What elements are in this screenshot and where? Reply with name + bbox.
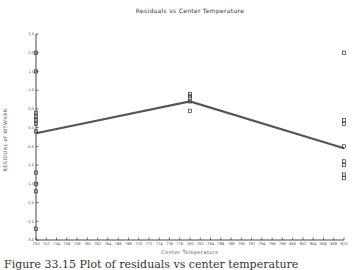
x-tick-label: 786: [217, 242, 225, 246]
x-tick-label: 780: [187, 242, 195, 246]
x-tick-label: 788: [228, 242, 236, 246]
x-tick-label: 784: [207, 242, 215, 246]
x-tick-label: 768: [125, 242, 133, 246]
data-point: [188, 109, 191, 112]
x-tick-label: 752: [43, 242, 50, 246]
y-axis-label: RESIDUAL of WTWVAR: [2, 108, 8, 171]
y-tick-label: 2.0: [28, 51, 34, 55]
x-tick-label: 792: [248, 242, 255, 246]
y-tick-label: 1.5: [28, 70, 34, 74]
y-tick-label: -1.5: [27, 182, 34, 186]
x-tick-label: 782: [197, 242, 204, 246]
y-tick-label: -2.0: [27, 201, 35, 205]
x-tick-label: 766: [115, 242, 123, 246]
x-tick-label: 758: [74, 242, 82, 246]
data-point: [342, 119, 345, 122]
x-tick-label: 760: [84, 242, 92, 246]
residuals-chart: Residuals vs Center Temperature 2.52.01.…: [0, 0, 359, 270]
data-point: [342, 122, 345, 125]
x-axis-label: Center Temperature: [161, 249, 218, 256]
x-tick-label: 790: [238, 242, 246, 246]
figure-caption: Figure 33.15 Plot of residuals vs center…: [4, 258, 298, 270]
x-tick-label: 794: [258, 242, 266, 246]
x-tick-label: 756: [63, 242, 71, 246]
data-point: [342, 51, 345, 54]
data-point: [342, 160, 345, 163]
x-tick-label: 808: [330, 242, 338, 246]
x-tick-label: 774: [156, 242, 164, 246]
x-tick-label: 802: [300, 242, 307, 246]
x-tick-label: 754: [53, 242, 61, 246]
y-tick-label: 1.0: [28, 88, 34, 92]
x-tick-label: 796: [269, 242, 277, 246]
x-tick-label: 778: [176, 242, 184, 246]
data-point: [342, 177, 345, 180]
chart-title: Residuals vs Center Temperature: [136, 7, 244, 15]
y-tick-label: 2.5: [28, 32, 34, 36]
x-tick-label: 776: [166, 242, 174, 246]
x-tick-label: 800: [289, 242, 297, 246]
y-tick-label: -1.0: [27, 163, 35, 167]
x-tick-label: 798: [279, 242, 287, 246]
x-tick-label: 810: [341, 242, 349, 246]
data-point: [342, 163, 345, 166]
x-tick-label: 762: [94, 242, 101, 246]
x-tick-label: 764: [104, 242, 112, 246]
data-point: [342, 173, 345, 176]
x-tick-label: 804: [310, 242, 318, 246]
axes: 2.52.01.51.00.50.0-0.5-1.0-1.5-2.0-2.5-3…: [27, 32, 348, 246]
x-tick-label: 750: [33, 242, 41, 246]
x-tick-label: 806: [320, 242, 328, 246]
x-tick-label: 770: [135, 242, 143, 246]
x-tick-label: 772: [146, 242, 153, 246]
y-tick-label: 0.0: [28, 126, 34, 130]
plot-area: [34, 51, 345, 230]
y-tick-label: -2.5: [27, 220, 34, 224]
y-tick-label: -0.5: [27, 145, 34, 149]
y-tick-label: 0.5: [28, 107, 34, 111]
mean-residual-line: [36, 101, 344, 148]
